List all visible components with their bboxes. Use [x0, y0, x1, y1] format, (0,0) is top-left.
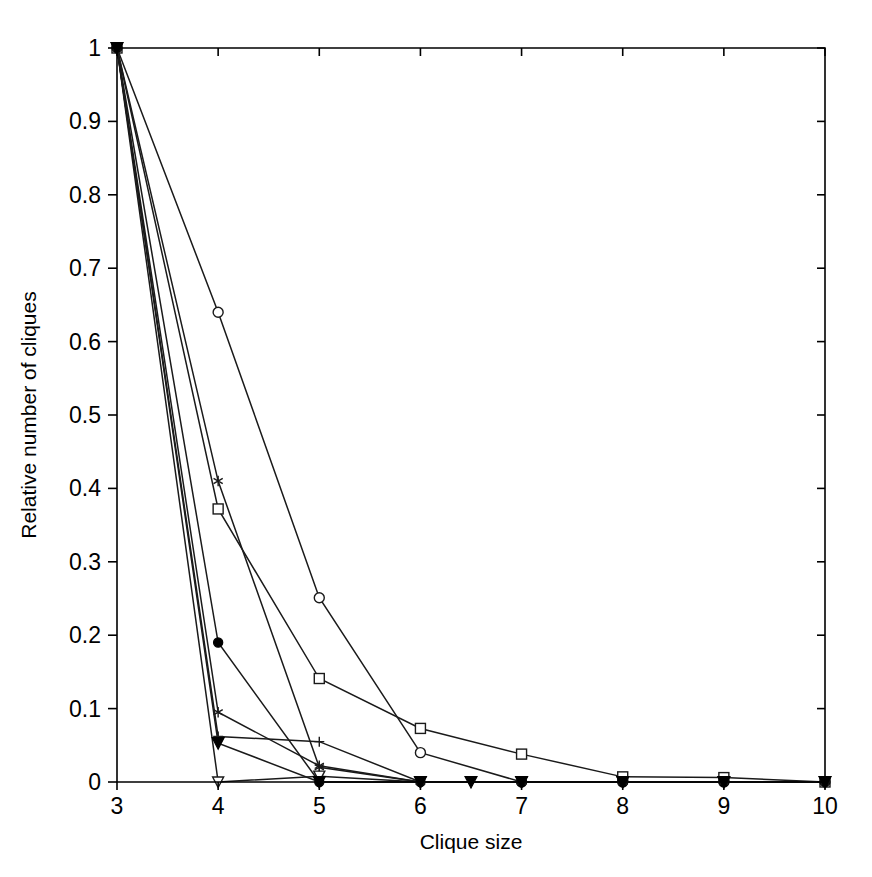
x-tick-label: 7	[515, 793, 528, 819]
y-tick-labels: 00.10.20.30.40.50.60.70.80.91	[69, 35, 101, 795]
y-tick-label: 1	[88, 35, 101, 61]
y-tick-label: 0.4	[69, 475, 101, 501]
data-point-open-square	[517, 749, 527, 759]
data-point-open-circle	[415, 748, 425, 758]
y-tick-label: 0.5	[69, 402, 101, 428]
plot-background	[117, 48, 825, 782]
y-tick-label: 0.1	[69, 696, 101, 722]
x-tick-label: 3	[111, 793, 124, 819]
data-point-filled-circle	[214, 638, 223, 647]
data-point-open-square	[213, 504, 223, 514]
x-tick-label: 5	[313, 793, 326, 819]
y-tick-label: 0.7	[69, 255, 101, 281]
x-tick-label: 6	[414, 793, 427, 819]
x-axis-title: Clique size	[420, 830, 523, 853]
data-point-open-circle	[314, 593, 324, 603]
y-tick-label: 0.9	[69, 108, 101, 134]
y-tick-label: 0.2	[69, 622, 101, 648]
y-tick-label: 0	[88, 769, 101, 795]
data-point-open-circle	[213, 307, 223, 317]
data-point-open-square	[314, 674, 324, 684]
y-tick-label: 0.8	[69, 182, 101, 208]
x-tick-labels: 345678910	[111, 793, 838, 819]
clique-size-line-chart: 345678910 00.10.20.30.40.50.60.70.80.91 …	[0, 0, 872, 877]
figure-canvas: 345678910 00.10.20.30.40.50.60.70.80.91 …	[0, 0, 872, 877]
y-tick-label: 0.6	[69, 329, 101, 355]
y-tick-label: 0.3	[69, 549, 101, 575]
y-axis-title: Relative number of cliques	[17, 291, 40, 538]
data-point-open-square	[415, 723, 425, 733]
x-tick-label: 10	[812, 793, 838, 819]
x-tick-label: 8	[616, 793, 629, 819]
x-tick-label: 9	[717, 793, 730, 819]
x-tick-label: 4	[212, 793, 225, 819]
